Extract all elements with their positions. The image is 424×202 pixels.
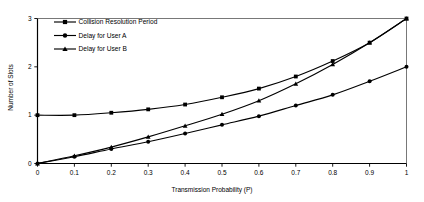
x-tick-label: 0 xyxy=(23,169,53,176)
data-point-marker xyxy=(368,79,372,83)
x-tick-label: 0.3 xyxy=(133,169,163,176)
data-point-marker xyxy=(183,103,187,107)
data-point-marker xyxy=(331,93,335,97)
x-tick-label: 0.2 xyxy=(96,169,126,176)
chart-legend: Collision Resolution PeriodDelay for Use… xyxy=(54,18,158,53)
legend-label: Delay for User B xyxy=(79,45,128,53)
data-point-marker xyxy=(405,65,409,69)
legend-item-2: Delay for User A xyxy=(54,32,127,40)
x-tick-label: 0.7 xyxy=(281,169,311,176)
data-point-marker xyxy=(146,107,150,111)
data-point-marker xyxy=(257,114,261,118)
x-tick-label: 0.8 xyxy=(318,169,348,176)
plot-frame xyxy=(38,19,407,164)
data-point-marker xyxy=(73,113,77,117)
y-tick-label: 1 xyxy=(12,111,32,118)
x-tick-label: 0.1 xyxy=(59,169,89,176)
legend-label: Collision Resolution Period xyxy=(79,18,158,25)
y-tick-label: 0 xyxy=(12,160,32,167)
data-point-marker xyxy=(109,111,113,115)
legend-marker xyxy=(63,20,67,24)
legend-marker xyxy=(63,33,67,37)
legend-label: Delay for User A xyxy=(79,32,128,40)
x-tick-label: 0.6 xyxy=(244,169,274,176)
x-axis-title: Transmission Probability (P) xyxy=(0,186,424,193)
data-point-marker xyxy=(220,95,224,99)
chart-container: Collision Resolution PeriodDelay for Use… xyxy=(0,0,424,202)
data-point-marker xyxy=(220,123,224,127)
x-tick-label: 0.9 xyxy=(355,169,385,176)
data-point-marker xyxy=(294,75,298,79)
axis-ticks xyxy=(34,19,406,167)
y-tick-label: 2 xyxy=(12,63,32,70)
x-tick-label: 0.5 xyxy=(207,169,237,176)
data-point-marker xyxy=(294,104,298,108)
data-point-marker xyxy=(146,140,150,144)
legend-item-3: Delay for User B xyxy=(54,45,127,53)
data-point-marker xyxy=(183,132,187,136)
x-tick-label: 1 xyxy=(392,169,422,176)
data-point-marker xyxy=(36,113,40,117)
x-tick-label: 0.4 xyxy=(170,169,200,176)
legend-item-1: Collision Resolution Period xyxy=(54,18,158,25)
data-point-marker xyxy=(257,87,261,91)
y-tick-label: 3 xyxy=(12,15,32,22)
